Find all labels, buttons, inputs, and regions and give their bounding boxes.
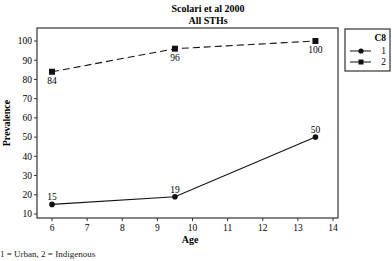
x-tick-label: 14 xyxy=(328,223,338,233)
y-tick-label: 90 xyxy=(23,56,33,66)
footnote: 1 = Urban, 2 = Indigenous xyxy=(0,249,95,259)
y-tick-label: 20 xyxy=(23,190,33,200)
data-point-square xyxy=(172,46,178,52)
x-tick-label: 8 xyxy=(120,223,125,233)
legend-square-marker-icon xyxy=(359,60,364,65)
x-axis: 67891011121314 xyxy=(50,218,338,233)
y-tick-label: 100 xyxy=(18,36,33,46)
y-tick-label: 70 xyxy=(23,94,33,104)
data-label: 100 xyxy=(308,45,323,55)
data-label: 84 xyxy=(47,76,57,86)
legend: C8 1 2 xyxy=(345,29,390,71)
x-tick-label: 6 xyxy=(50,223,55,233)
chart-subtitle: All STHs xyxy=(188,15,227,26)
line-chart: Scolari et al 2000 All STHs 102030405060… xyxy=(0,0,392,261)
x-tick-label: 11 xyxy=(223,223,232,233)
y-axis-label: Prevalence xyxy=(1,99,12,146)
data-point-circle xyxy=(49,202,55,208)
data-label: 50 xyxy=(311,125,321,135)
x-tick-label: 13 xyxy=(293,223,303,233)
plot-frame xyxy=(37,28,338,218)
x-tick-label: 7 xyxy=(85,223,90,233)
data-label: 19 xyxy=(170,185,180,195)
series-line-2 xyxy=(52,41,315,72)
x-tick-label: 9 xyxy=(155,223,160,233)
chart-title: Scolari et al 2000 xyxy=(171,3,244,14)
data-point-square xyxy=(49,69,55,75)
data-point-square xyxy=(312,38,318,44)
y-tick-label: 50 xyxy=(23,132,33,142)
y-axis: 102030405060708090100 xyxy=(18,36,37,219)
data-label: 15 xyxy=(47,192,57,202)
legend-title: C8 xyxy=(374,33,386,43)
y-tick-label: 30 xyxy=(23,171,33,181)
x-axis-label: Age xyxy=(182,234,199,245)
data-point-circle xyxy=(313,134,319,140)
series-group: 1519508496100 xyxy=(47,38,323,207)
data-label: 96 xyxy=(170,53,180,63)
legend-label-2: 2 xyxy=(381,57,386,67)
x-tick-label: 12 xyxy=(258,223,268,233)
data-point-circle xyxy=(172,194,178,200)
y-tick-label: 40 xyxy=(23,152,33,162)
y-tick-label: 10 xyxy=(23,209,33,219)
x-tick-label: 10 xyxy=(188,223,198,233)
legend-circle-marker-icon xyxy=(358,48,363,53)
series-line-1 xyxy=(52,137,315,204)
y-tick-label: 60 xyxy=(23,113,33,123)
y-tick-label: 80 xyxy=(23,75,33,85)
legend-label-1: 1 xyxy=(381,46,386,56)
